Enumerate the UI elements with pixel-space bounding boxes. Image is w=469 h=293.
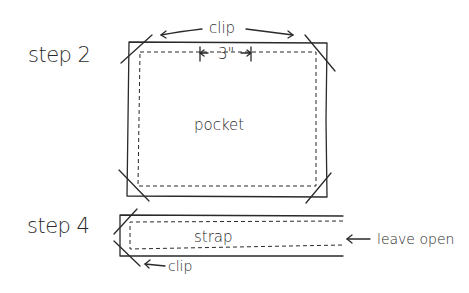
clip-arrow-bottom-icon — [145, 260, 165, 268]
strap-stitch-line — [130, 221, 343, 249]
step-4-label: step 4 — [27, 214, 89, 238]
dimension-label: 3" — [218, 45, 234, 63]
strap-label: strap — [194, 228, 233, 246]
clip-label-bottom: clip — [168, 258, 192, 274]
clip-line-strap-bottom — [114, 241, 140, 266]
clip-line-top-left — [121, 35, 152, 63]
leave-open-label: leave open — [377, 231, 454, 247]
dimension-arrow-left-icon — [200, 50, 208, 56]
clip-arrow-left-icon — [161, 29, 202, 38]
sewing-diagram: step 2 clip 3" pocket ste — [0, 0, 469, 293]
clip-arrow-right-icon — [246, 29, 293, 38]
step-2-group: step 2 clip 3" pocket — [28, 19, 335, 203]
clip-label-top: clip — [209, 19, 235, 37]
pocket-label: pocket — [194, 116, 244, 134]
clip-line-top-right — [305, 35, 335, 71]
step-4-group: step 4 strap leave open clip — [27, 209, 454, 274]
dimension-arrow-right-icon — [241, 50, 251, 56]
clip-line-strap-top — [114, 209, 137, 234]
leave-open-arrow-icon — [347, 235, 370, 243]
step-2-label: step 2 — [28, 43, 90, 67]
dimension-marker: 3" — [200, 45, 251, 63]
